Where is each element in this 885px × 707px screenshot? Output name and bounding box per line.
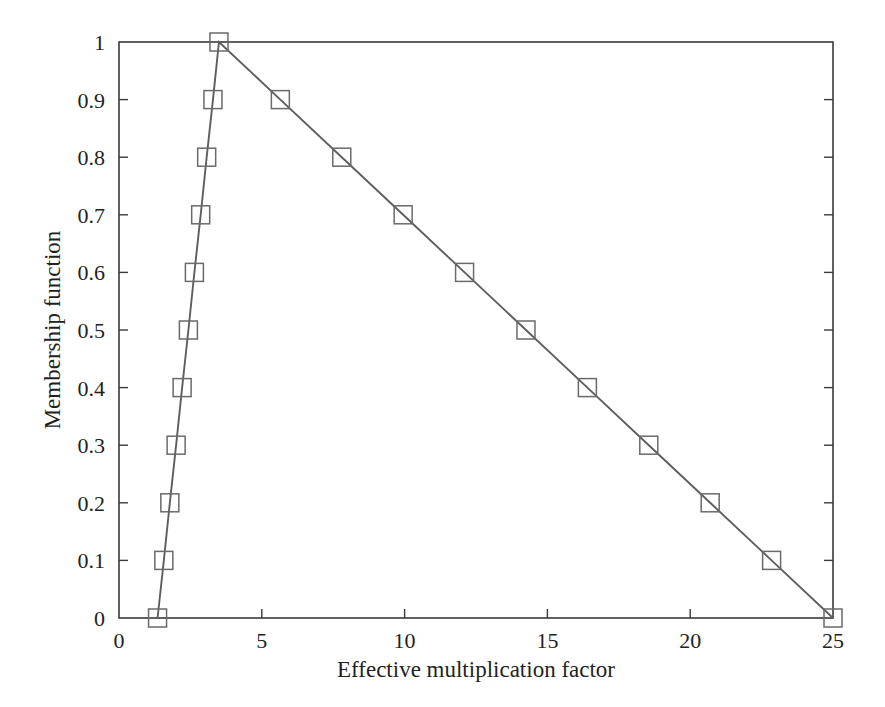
y-tick-label-7: 0.7 [78,203,106,228]
y-tick-label-8: 0.8 [78,145,106,170]
x-tick-label-1: 5 [256,628,267,653]
x-tick-label-5: 25 [822,628,844,653]
series-marker-group [149,33,842,627]
series-line-group [158,42,833,618]
plot-frame [119,42,833,618]
y-tick-label-0: 0 [94,606,105,631]
x-tick-label-2: 10 [394,628,416,653]
y-axis-tick-labels: 00.10.20.30.40.50.60.70.80.91 [78,30,106,631]
y-tick-label-2: 0.2 [78,491,106,516]
y-tick-label-9: 0.9 [78,88,106,113]
y-tick-label-3: 0.3 [78,433,106,458]
y-tick-label-10: 1 [94,30,105,55]
series-line-0 [158,42,833,618]
chart-figure: 0510152025 00.10.20.30.40.50.60.70.80.91… [0,0,885,707]
x-axis-title: Effective multiplication factor [337,657,615,682]
y-axis-title: Membership function [40,230,65,429]
y-tick-label-5: 0.5 [78,318,106,343]
x-tick-label-0: 0 [114,628,125,653]
plot-box [119,42,833,618]
membership-function-plot: 0510152025 00.10.20.30.40.50.60.70.80.91… [0,0,885,707]
y-tick-label-4: 0.4 [78,376,106,401]
x-tick-label-4: 20 [679,628,701,653]
x-axis-tick-labels: 0510152025 [114,628,845,653]
y-tick-label-6: 0.6 [78,260,106,285]
x-axis-ticks [262,609,690,618]
x-tick-label-3: 15 [536,628,558,653]
y-axis-ticks [119,100,833,561]
y-tick-label-1: 0.1 [78,548,106,573]
